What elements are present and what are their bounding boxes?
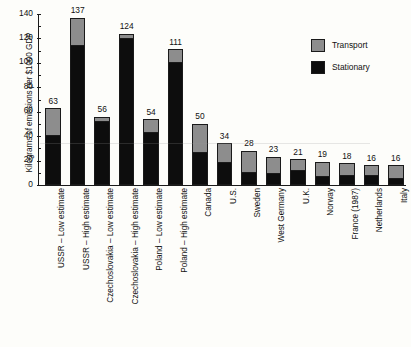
bar-stack[interactable] <box>339 163 355 185</box>
legend-swatch-stationary <box>311 61 325 74</box>
y-tick-label: 20 <box>24 155 33 164</box>
x-axis-category-labels: USSR – Low estimateUSSR – High estimateC… <box>39 188 407 318</box>
bar-value-label: 18 <box>342 152 351 161</box>
bar-group[interactable]: 50 <box>192 14 208 185</box>
bar-stack[interactable] <box>315 162 331 185</box>
x-axis-label-14: Netherlands <box>375 188 384 232</box>
legend-item-transport[interactable]: Transport <box>311 39 370 52</box>
legend-swatch-transport <box>311 39 325 52</box>
bar-group[interactable]: 34 <box>217 14 233 185</box>
emissions-stacked-bar-chart: Kilograms of emissions per $1000 GDP 020… <box>0 0 411 347</box>
bar-stack[interactable] <box>45 108 61 185</box>
x-axis-label-6: Poland – High estimate <box>180 188 189 273</box>
bar-value-label: 21 <box>293 148 302 157</box>
bar-group[interactable]: 111 <box>168 14 184 185</box>
bar-value-label: 16 <box>367 154 376 163</box>
x-axis-label-1: USSR – Low estimate <box>57 188 66 268</box>
x-axis-label-12: Norway <box>326 188 335 216</box>
bar-stack[interactable] <box>143 119 159 185</box>
bar-segment-transport[interactable] <box>120 35 134 40</box>
legend-label: Stationary <box>332 63 370 72</box>
bar-segment-transport[interactable] <box>218 144 232 162</box>
y-tick-mark <box>37 185 41 186</box>
y-tick-label: 80 <box>24 82 33 91</box>
bar-segment-transport[interactable] <box>291 160 305 171</box>
bar-segment-transport[interactable] <box>267 158 281 174</box>
y-tick-label: 120 <box>19 33 33 42</box>
bar-stack[interactable] <box>70 18 86 185</box>
scan-artifact-line <box>40 143 370 144</box>
x-axis-label-5: Poland – Low estimate <box>155 188 164 271</box>
bar-stack[interactable] <box>290 159 306 185</box>
bar-segment-transport[interactable] <box>169 50 183 62</box>
bar-segment-transport[interactable] <box>365 166 379 176</box>
x-axis-label-13: France (1987) <box>351 188 360 239</box>
bar-value-label: 23 <box>269 145 278 154</box>
y-tick-label: 100 <box>19 57 33 66</box>
bar-stack[interactable] <box>388 165 404 185</box>
bar-group[interactable]: 54 <box>143 14 159 185</box>
chart-legend: TransportStationary <box>311 39 370 83</box>
bar-segment-transport[interactable] <box>46 109 60 136</box>
bar-stack[interactable] <box>364 165 380 185</box>
bar-stack[interactable] <box>241 151 257 185</box>
x-axis-label-10: West Germany <box>277 188 286 242</box>
bar-group[interactable]: 28 <box>241 14 257 185</box>
bar-value-label: 111 <box>169 38 182 47</box>
bar-value-label: 54 <box>146 108 155 117</box>
bar-group[interactable]: 23 <box>266 14 282 185</box>
bar-value-label: 19 <box>318 150 327 159</box>
legend-label: Transport <box>332 41 368 50</box>
x-axis-label-8: U.S. <box>229 188 238 204</box>
y-tick-label: 140 <box>19 9 33 18</box>
bar-stack[interactable] <box>266 157 282 185</box>
bar-segment-transport[interactable] <box>144 120 158 133</box>
bar-group[interactable]: 124 <box>119 14 135 185</box>
x-axis-label-3: Czechoslovakia – Low estimate <box>106 188 115 303</box>
y-tick-label: 40 <box>24 131 33 140</box>
bar-segment-transport[interactable] <box>340 164 354 176</box>
x-axis-label-9: Sweden <box>253 188 262 218</box>
bar-value-label: 50 <box>195 112 204 121</box>
bar-value-label: 34 <box>220 132 229 141</box>
bar-group[interactable]: 63 <box>45 14 61 185</box>
bar-value-label: 63 <box>49 97 58 106</box>
bar-segment-transport[interactable] <box>242 152 256 173</box>
bar-stack[interactable] <box>192 124 208 185</box>
bar-stack[interactable] <box>119 34 135 185</box>
legend-item-stationary[interactable]: Stationary <box>311 61 370 74</box>
x-axis-label-15: Italy <box>400 188 409 203</box>
bar-value-label: 124 <box>120 22 134 31</box>
bar-group[interactable]: 137 <box>70 14 86 185</box>
bar-group[interactable]: 21 <box>290 14 306 185</box>
bar-value-label: 137 <box>71 6 85 15</box>
bar-segment-transport[interactable] <box>71 19 85 46</box>
x-axis-label-11: U.K. <box>302 188 311 204</box>
bar-group[interactable]: 16 <box>388 14 404 185</box>
bar-stack[interactable] <box>168 49 184 185</box>
bar-group[interactable]: 56 <box>94 14 110 185</box>
bar-segment-transport[interactable] <box>389 166 403 178</box>
y-tick-label: 60 <box>24 106 33 115</box>
y-tick-label: 0 <box>28 180 33 189</box>
bar-value-label: 56 <box>97 105 106 114</box>
x-axis-label-7: Canada <box>204 188 213 217</box>
bar-segment-transport[interactable] <box>193 125 207 153</box>
x-axis-label-2: USSR – High estimate <box>82 188 91 270</box>
bar-stack[interactable] <box>217 143 233 185</box>
bar-value-label: 16 <box>391 154 400 163</box>
x-axis-line <box>38 185 406 186</box>
x-axis-label-4: Czechoslovakia – High estimate <box>131 188 140 305</box>
bar-segment-transport[interactable] <box>95 118 109 123</box>
bar-segment-transport[interactable] <box>316 163 330 178</box>
bar-stack[interactable] <box>94 117 110 185</box>
